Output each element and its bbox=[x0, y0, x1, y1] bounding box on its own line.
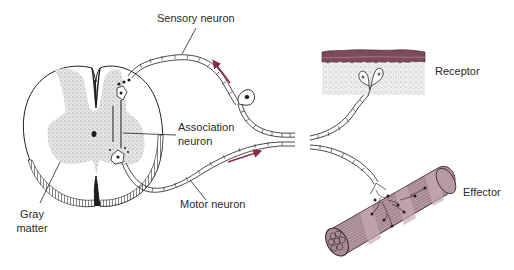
label-effector: Effector bbox=[463, 186, 501, 199]
reflex-arc-diagram: Sensory neuron Receptor Association neur… bbox=[0, 0, 514, 270]
sensory-signal-arrow bbox=[215, 63, 230, 83]
label-gray-matter-line2: matter bbox=[12, 222, 52, 235]
label-association-line1: Association bbox=[178, 121, 234, 134]
label-receptor: Receptor bbox=[435, 65, 480, 78]
diagram-canvas bbox=[0, 0, 514, 270]
label-association-line2: neuron bbox=[178, 135, 212, 148]
motor-nerve-to-effector bbox=[310, 145, 386, 194]
receptor bbox=[322, 50, 425, 95]
label-motor-neuron: Motor neuron bbox=[180, 198, 245, 211]
effector bbox=[321, 165, 460, 260]
sensory-nerve-to-receptor bbox=[310, 90, 371, 140]
label-gray-matter-line1: Gray bbox=[14, 208, 50, 221]
label-sensory-neuron: Sensory neuron bbox=[157, 12, 235, 25]
